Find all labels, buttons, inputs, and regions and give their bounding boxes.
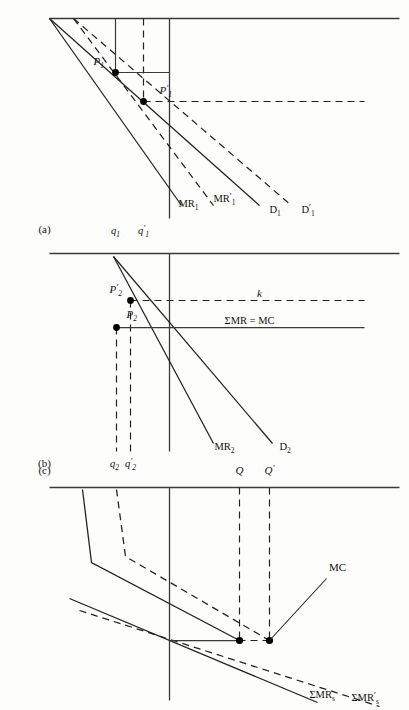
panel-letter-c: (c) <box>38 463 51 476</box>
economics-diagram-svg: P1 P′1 D1 D′1 <box>0 0 409 710</box>
rotated-figure-container: P1 P′1 D1 D′1 <box>0 0 409 710</box>
canvas-background <box>0 0 409 710</box>
label-mc: MC <box>328 560 345 572</box>
tick-q-total: Q <box>235 463 243 475</box>
label-sigma-mr-equals-mc: ΣMR = MC <box>224 314 274 325</box>
panel-letter-a: (a) <box>38 222 51 235</box>
figure-page: P1 P′1 D1 D′1 <box>0 0 409 710</box>
label-k: k <box>257 286 263 298</box>
